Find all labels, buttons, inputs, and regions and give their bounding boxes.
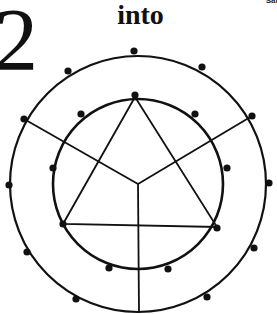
inner-dot (164, 265, 171, 272)
outer-dot (20, 115, 27, 122)
inner-dot (105, 264, 112, 271)
outer-dot (23, 248, 30, 255)
spoke-0 (24, 119, 138, 184)
outer-dot (72, 295, 79, 302)
outer-dot (130, 47, 137, 54)
inner-dot (223, 164, 230, 171)
inner-dot (77, 110, 84, 117)
outer-dot (5, 181, 12, 188)
outer-dot (198, 63, 205, 70)
outer-dot (265, 179, 272, 186)
inner-dot (59, 220, 66, 227)
outer-dot (250, 244, 257, 251)
outer-dot (248, 112, 255, 119)
outer-dot (64, 67, 71, 74)
spoke-2 (138, 184, 139, 313)
inner-dot (213, 224, 220, 231)
inner-dot (49, 164, 56, 171)
outer-dot (203, 293, 210, 300)
concentric-circle-diagram (0, 0, 277, 314)
inner-dot (131, 91, 138, 98)
inner-dot (191, 110, 198, 117)
spoke-1 (138, 116, 252, 184)
